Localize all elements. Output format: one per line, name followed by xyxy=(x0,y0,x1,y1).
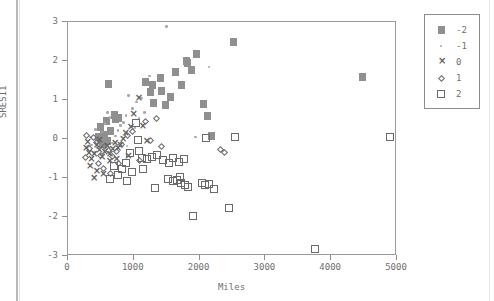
legend-item-neg2[interactable]: -2 xyxy=(425,22,479,38)
scatter-point xyxy=(311,245,319,253)
scatter-point xyxy=(115,114,122,122)
scatter-point xyxy=(208,66,211,69)
x-tick-mark xyxy=(67,255,68,260)
scatter-points-layer: ×××××××××××××××××××××××××××××× xyxy=(68,22,395,254)
scatter-point xyxy=(123,177,131,185)
y-axis-title: SRESI1 xyxy=(0,85,8,118)
y-tick-label: -3 xyxy=(30,251,58,260)
scatter-point: × xyxy=(129,110,137,118)
scatter-point: × xyxy=(135,94,143,102)
scatter-point xyxy=(110,162,118,170)
scatter-point xyxy=(126,145,129,148)
y-tick-label: 1 xyxy=(30,95,58,104)
legend-item-1[interactable]: 1 xyxy=(425,70,479,86)
y-tick-label: 0 xyxy=(30,134,58,143)
scatter-point xyxy=(231,133,239,141)
x-tick-mark xyxy=(396,255,397,260)
scatter-point xyxy=(117,129,120,132)
filled-square-icon xyxy=(433,23,449,37)
x-tick-label: 4000 xyxy=(306,263,354,272)
scatter-point xyxy=(132,119,140,127)
scan-edge-artifact-right xyxy=(489,0,490,301)
scatter-point xyxy=(210,185,218,193)
chart-page: SRESI1 3210-1-2-3 010002000300040005000 … xyxy=(0,0,494,301)
scatter-point xyxy=(386,133,394,141)
scatter-point xyxy=(162,101,169,109)
scatter-point xyxy=(158,87,165,95)
scatter-point xyxy=(157,74,164,82)
scatter-point xyxy=(151,184,159,192)
scan-edge-artifact-left xyxy=(16,0,18,301)
scatter-point xyxy=(153,115,160,122)
scatter-point xyxy=(225,204,233,212)
scatter-point xyxy=(200,100,207,108)
x-mark-icon: × xyxy=(433,55,449,69)
scatter-point xyxy=(193,50,200,58)
legend-label: -2 xyxy=(456,25,467,35)
scatter-point xyxy=(104,122,107,125)
scatter-point xyxy=(194,136,197,139)
legend-label: 0 xyxy=(456,57,461,67)
scatter-point xyxy=(106,175,114,183)
plot-area[interactable]: ×××××××××××××××××××××××××××××× xyxy=(67,21,396,255)
scan-edge-artifact-left-soft xyxy=(19,0,20,301)
scatter-point xyxy=(114,171,122,179)
scatter-point xyxy=(149,81,156,89)
scatter-point xyxy=(172,68,179,76)
y-tick-label: 2 xyxy=(30,56,58,65)
scatter-point xyxy=(106,111,109,114)
scatter-point xyxy=(148,75,151,78)
scatter-point xyxy=(150,99,157,107)
scatter-point xyxy=(107,127,114,135)
x-tick-label: 3000 xyxy=(240,263,288,272)
scatter-point xyxy=(230,38,237,46)
scatter-point xyxy=(180,155,188,163)
scatter-point xyxy=(128,168,136,176)
legend-label: 2 xyxy=(456,89,461,99)
scatter-point xyxy=(94,128,97,131)
scatter-point xyxy=(127,94,130,97)
x-tick-label: 2000 xyxy=(175,263,223,272)
x-tick-mark xyxy=(199,255,200,260)
legend-item-2[interactable]: 2 xyxy=(425,86,479,102)
scatter-point xyxy=(105,80,112,88)
small-dot-icon xyxy=(433,39,449,53)
diamond-icon xyxy=(433,71,449,85)
y-tick-label: -1 xyxy=(30,173,58,182)
legend-label: 1 xyxy=(456,73,461,83)
scatter-point xyxy=(119,124,122,127)
scatter-point: × xyxy=(90,174,98,182)
legend[interactable]: -2-1×012 xyxy=(424,14,480,109)
scatter-point xyxy=(202,134,210,142)
x-axis-title: Miles xyxy=(0,282,463,292)
scatter-point xyxy=(221,149,228,156)
x-tick-label: 0 xyxy=(43,263,91,272)
scatter-point xyxy=(165,25,168,28)
scatter-point xyxy=(167,93,174,101)
legend-item-neg1[interactable]: -1 xyxy=(425,38,479,54)
x-tick-mark xyxy=(133,255,134,260)
scatter-point xyxy=(147,88,154,96)
scatter-point xyxy=(125,114,128,117)
y-tick-label: -2 xyxy=(30,212,58,221)
x-tick-label: 5000 xyxy=(372,263,420,272)
scatter-point xyxy=(204,112,211,120)
scatter-point xyxy=(143,111,146,114)
scatter-point xyxy=(188,66,195,74)
x-tick-label: 1000 xyxy=(109,263,157,272)
x-tick-mark xyxy=(264,255,265,260)
legend-label: -1 xyxy=(456,41,467,51)
legend-item-0[interactable]: ×0 xyxy=(425,54,479,70)
scatter-point xyxy=(359,73,366,81)
y-tick-label: 3 xyxy=(30,17,58,26)
scatter-point xyxy=(184,183,192,191)
scatter-point xyxy=(139,165,147,173)
scatter-point xyxy=(158,142,165,149)
scatter-point xyxy=(189,212,197,220)
scatter-point xyxy=(122,121,125,124)
open-square-icon xyxy=(433,87,449,101)
scatter-point xyxy=(134,136,142,144)
scatter-point xyxy=(126,149,134,157)
scatter-point xyxy=(178,81,185,89)
x-tick-mark xyxy=(330,255,331,260)
